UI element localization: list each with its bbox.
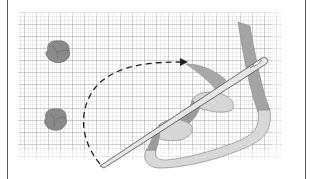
ribbon-knot-top [46, 41, 70, 63]
ribbon-knot-bottom [45, 109, 67, 130]
illustration-frame [0, 0, 310, 179]
ribbon-stitch-diagram [0, 0, 310, 179]
